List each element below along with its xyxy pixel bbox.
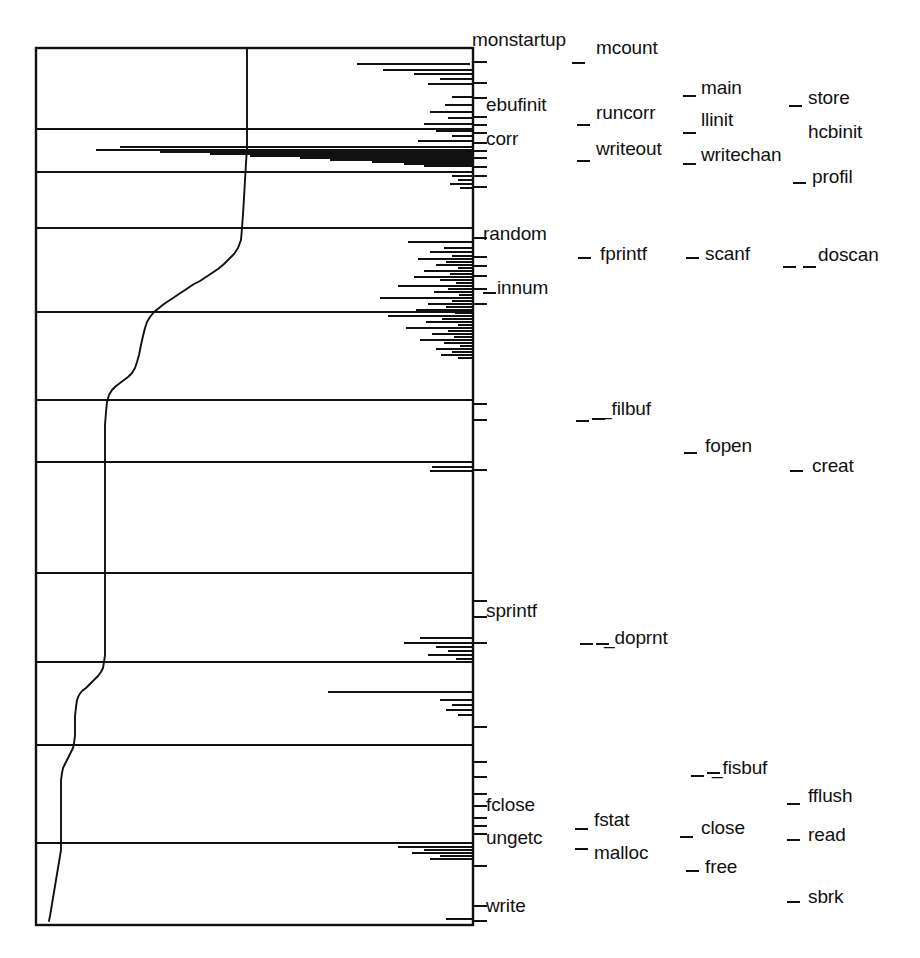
function-label-fstat: fstat (594, 810, 629, 829)
function-label-scanf: scanf (705, 244, 750, 263)
function-label-malloc: malloc (594, 843, 648, 862)
function-label-writechan: writechan (701, 145, 781, 164)
function-label-innum: innum (497, 278, 548, 297)
function-label-fisbuf: _fisbuf (712, 758, 767, 777)
address-trace-plot (0, 0, 920, 958)
function-label-monstartup: monstartup (472, 30, 566, 49)
function-label-doprnt: _doprnt (604, 628, 668, 647)
function-label-free: free (705, 857, 737, 876)
function-label-main: main (701, 78, 742, 97)
function-label-write: write (486, 896, 526, 915)
function-label-fflush: fflush (808, 786, 852, 805)
function-label-random: random (483, 224, 547, 243)
plot-frame (36, 48, 473, 925)
profile-figure: monstartupebufinitcorrrandominnumsprintf… (0, 0, 920, 958)
function-label-read: read (808, 825, 846, 844)
function-label-writeout: writeout (596, 139, 662, 158)
function-label-fopen: fopen (705, 436, 752, 455)
function-label-creat: creat (812, 456, 854, 475)
function-label-fclose: fclose (486, 795, 535, 814)
function-label-fprintf: fprintf (600, 244, 647, 263)
function-label-close: close (701, 818, 745, 837)
axis-tick-marks (473, 62, 487, 921)
function-label-runcorr: runcorr (596, 103, 655, 122)
function-label-profil: profil (812, 167, 853, 186)
function-label-llinit: llinit (701, 110, 733, 129)
function-label-sbrk: sbrk (808, 887, 844, 906)
function-label-ungetc: ungetc (486, 828, 542, 847)
function-label-corr: corr (486, 129, 518, 148)
function-label-store: store (808, 88, 850, 107)
function-label-mcount: mcount (596, 38, 658, 57)
function-label-filbuf: _filbuf (601, 399, 651, 418)
function-label-ebufinit: ebufinit (486, 95, 546, 114)
function-label-doscan: doscan (818, 245, 879, 264)
function-label-hcbinit: hcbinit (808, 122, 862, 141)
function-label-sprintf: sprintf (486, 601, 537, 620)
